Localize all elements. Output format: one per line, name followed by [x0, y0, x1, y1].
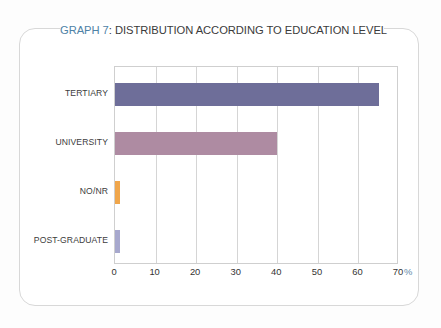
category-axis-labels: TERTIARY UNIVERSITY NO/NR POST-GRADUATE [0, 66, 108, 264]
chart-title-prefix: GRAPH 7 [60, 24, 109, 36]
xtick-50: 50 [312, 266, 322, 277]
category-label-no-nr: NO/NR [0, 186, 108, 196]
bar-post-graduate [115, 230, 120, 253]
bar-no-nr [115, 181, 120, 204]
category-label-tertiary: TERTIARY [0, 88, 108, 98]
xtick-10: 10 [149, 266, 159, 277]
xtick-70: 70 [393, 266, 403, 277]
xtick-40: 40 [271, 266, 281, 277]
xtick-0: 0 [111, 266, 116, 277]
category-label-university: UNIVERSITY [0, 137, 108, 147]
chart-page: GRAPH 7: DISTRIBUTION ACCORDING TO EDUCA… [0, 0, 441, 328]
plot-area [114, 66, 398, 264]
category-label-post-graduate: POST-GRADUATE [0, 235, 108, 245]
value-axis-labels: 0 10 20 30 40 50 60 70 [114, 266, 398, 280]
xtick-30: 30 [230, 266, 240, 277]
chart-title-rest: : DISTRIBUTION ACCORDING TO EDUCATION LE… [109, 24, 387, 36]
xtick-60: 60 [352, 266, 362, 277]
bar-tertiary [115, 83, 379, 106]
xtick-20: 20 [190, 266, 200, 277]
axis-unit-label: % [404, 266, 412, 277]
chart-title: GRAPH 7: DISTRIBUTION ACCORDING TO EDUCA… [60, 23, 384, 37]
bar-university [115, 132, 277, 155]
